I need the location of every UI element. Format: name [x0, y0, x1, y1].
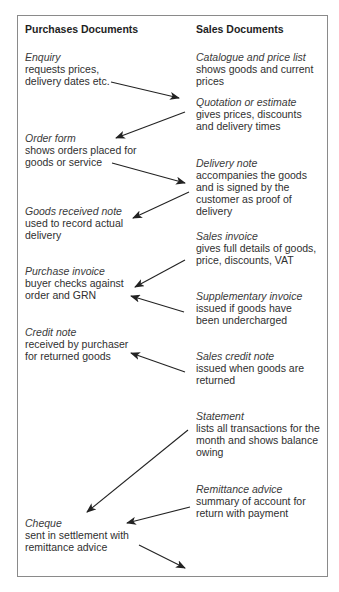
doc-title: Catalogue and price list: [196, 51, 313, 63]
doc-description-line: for returned goods: [25, 350, 128, 362]
sales-doc-quotation: Quotation or estimate gives prices, disc…: [196, 96, 302, 132]
doc-description-line: and is signed by the: [196, 181, 307, 193]
doc-description-line: issued if goods have: [196, 302, 302, 314]
doc-description-line: and delivery times: [196, 120, 302, 132]
doc-description-line: shows goods and current: [196, 63, 313, 75]
doc-description-line: used to record actual: [25, 217, 123, 229]
purchase-doc-goods-received-note: Goods received note used to record actua…: [25, 205, 123, 241]
doc-description-line: delivery dates etc.: [25, 75, 110, 87]
purchase-doc-credit-note: Credit note received by purchaser for re…: [25, 326, 128, 362]
doc-description-line: month and shows balance: [196, 434, 320, 446]
sales-doc-delivery-note: Delivery note accompanies the goods and …: [196, 157, 307, 217]
sales-doc-catalogue: Catalogue and price list shows goods and…: [196, 51, 313, 87]
doc-title: Sales credit note: [196, 350, 304, 362]
doc-description-line: delivery: [196, 205, 307, 217]
doc-description-line: summary of account for: [196, 495, 306, 507]
doc-description-line: delivery: [25, 229, 123, 241]
doc-description-line: lists all transactions for the: [196, 422, 320, 434]
doc-title: Delivery note: [196, 157, 307, 169]
doc-description-line: owing: [196, 446, 320, 458]
doc-description-line: gives full details of goods,: [196, 242, 316, 254]
doc-description-line: order and GRN: [25, 289, 124, 301]
doc-description-line: accompanies the goods: [196, 169, 307, 181]
purchases-documents-header: Purchases Documents: [25, 23, 138, 35]
doc-description-line: goods or service: [25, 156, 136, 168]
doc-description-line: gives prices, discounts: [196, 108, 302, 120]
doc-description-line: sent in settlement with: [25, 529, 129, 541]
doc-description-line: been undercharged: [196, 314, 302, 326]
doc-description-line: customer as proof of: [196, 193, 307, 205]
doc-title: Order form: [25, 132, 136, 144]
doc-title: Statement: [196, 410, 320, 422]
doc-title: Goods received note: [25, 205, 123, 217]
doc-description-line: issued when goods are: [196, 362, 304, 374]
doc-description-line: return with payment: [196, 507, 306, 519]
purchase-doc-purchase-invoice: Purchase invoice buyer checks against or…: [25, 265, 124, 301]
sales-doc-sales-credit-note: Sales credit note issued when goods are …: [196, 350, 304, 386]
sales-doc-remittance-advice: Remittance advice summary of account for…: [196, 483, 306, 519]
doc-description-line: prices: [196, 75, 313, 87]
doc-title: Supplementary invoice: [196, 290, 302, 302]
doc-description-line: remittance advice: [25, 541, 129, 553]
purchase-doc-enquiry: Enquiry requests prices, delivery dates …: [25, 51, 110, 87]
sales-doc-statement: Statement lists all transactions for the…: [196, 410, 320, 458]
purchase-doc-cheque: Cheque sent in settlement with remittanc…: [25, 517, 129, 553]
sales-doc-supplementary-invoice: Supplementary invoice issued if goods ha…: [196, 290, 302, 326]
doc-description-line: buyer checks against: [25, 277, 124, 289]
doc-description-line: received by purchaser: [25, 338, 128, 350]
doc-title: Credit note: [25, 326, 128, 338]
doc-title: Purchase invoice: [25, 265, 124, 277]
doc-title: Enquiry: [25, 51, 110, 63]
doc-title: Remittance advice: [196, 483, 306, 495]
doc-title: Quotation or estimate: [196, 96, 302, 108]
doc-description-line: price, discounts, VAT: [196, 254, 316, 266]
purchase-doc-order-form: Order form shows orders placed for goods…: [25, 132, 136, 168]
sales-doc-sales-invoice: Sales invoice gives full details of good…: [196, 230, 316, 266]
doc-description-line: returned: [196, 374, 304, 386]
sales-documents-header: Sales Documents: [196, 23, 284, 35]
doc-description-line: requests prices,: [25, 63, 110, 75]
doc-title: Cheque: [25, 517, 129, 529]
doc-description-line: shows orders placed for: [25, 144, 136, 156]
doc-title: Sales invoice: [196, 230, 316, 242]
